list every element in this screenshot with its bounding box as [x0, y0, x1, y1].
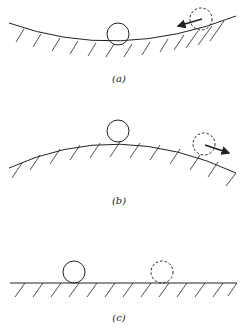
ball-equilibrium: [63, 261, 85, 283]
panel-c: (c): [10, 261, 237, 323]
label-a: (a): [112, 73, 126, 84]
ball-displaced: [151, 261, 173, 283]
panel-b: (b): [9, 120, 236, 206]
label-b: (b): [112, 195, 126, 206]
hatching: [16, 21, 224, 57]
hatching: [15, 283, 237, 297]
ball-equilibrium: [107, 23, 129, 45]
hatching: [12, 142, 236, 186]
panel-a: (a): [9, 8, 236, 84]
label-c: (c): [112, 312, 126, 323]
ball-displaced: [193, 133, 215, 155]
equilibrium-diagram: (a) (b): [0, 0, 245, 333]
convex-surface: [9, 144, 236, 173]
diverging-arrow-icon: [205, 145, 229, 153]
ball-equilibrium: [107, 120, 129, 142]
